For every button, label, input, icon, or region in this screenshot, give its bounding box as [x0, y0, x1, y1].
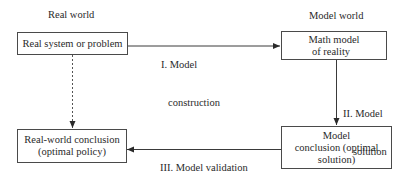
real-world-header: Real world	[48, 9, 94, 21]
node-label: of reality	[312, 46, 350, 58]
edge-label-line: III. Model validation	[160, 162, 249, 175]
node-real-world-conclusion: Real-world conclusion (optimal policy)	[17, 129, 127, 163]
edge-label-line: II. Model	[343, 108, 387, 121]
edge-label-model-solution: II. Model solution	[343, 83, 387, 171]
node-label: Real-world conclusion	[24, 134, 119, 146]
node-label: (optimal policy)	[38, 146, 106, 158]
edge-label-line: solution	[353, 146, 387, 159]
node-math-model: Math model of reality	[281, 31, 387, 60]
model-world-header: Model world	[309, 10, 364, 22]
node-label: Math model	[308, 34, 359, 46]
node-label: Real system or problem	[22, 38, 122, 50]
edge-label-line: construction	[168, 97, 220, 110]
edge-label-line: I. Model	[161, 59, 220, 72]
edge-label-model-validation: III. Model validation and interpretation	[160, 137, 249, 177]
node-real-system: Real system or problem	[17, 32, 128, 55]
edge-label-model-construction: I. Model construction	[161, 34, 220, 122]
